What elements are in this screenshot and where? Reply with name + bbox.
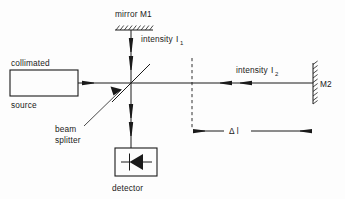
diagram-canvas: mirror M1 intensity I 1 collimated sourc…: [0, 0, 345, 199]
path-difference-dimension: [193, 129, 312, 133]
mirror-m1-hatching: [116, 26, 153, 31]
dimension-right-arrow: [300, 129, 312, 133]
mirror-m2: [313, 61, 318, 104]
intensity-1-label: intensity: [141, 34, 173, 44]
source-label-bottom: source: [11, 100, 37, 110]
mirror-m2-hatching: [313, 61, 318, 104]
mirror-m1: [115, 26, 153, 31]
detector-beam: [129, 83, 133, 148]
intensity-2-subscript: 2: [275, 71, 279, 77]
interferometer-diagram: mirror M1 intensity I 1 collimated sourc…: [0, 0, 345, 199]
mirror-m2-label: M2: [320, 79, 332, 89]
beam-splitter: [84, 64, 150, 126]
beam-splitter-label-line1: beam: [55, 124, 76, 134]
intensity-2-label: intensity: [236, 65, 268, 75]
intensity-2-symbol: I: [271, 65, 273, 75]
detector: [115, 148, 157, 176]
m2-arm-beam-arrow-outer: [220, 81, 232, 86]
m1-arm-beam: [129, 30, 133, 83]
m1-arm-beam-arrow-lower: [129, 56, 133, 70]
dimension-left-arrow: [193, 129, 205, 133]
intensity-1-symbol: I: [176, 34, 178, 44]
beam-splitter-leader-line: [84, 90, 121, 126]
source-box: [10, 70, 78, 96]
beam-splitter-label-line2: splitter: [55, 135, 81, 145]
source-beam: [78, 81, 131, 86]
path-difference-label: Δ l: [229, 126, 239, 136]
m1-arm-beam-arrow-upper: [129, 38, 133, 52]
m2-arm-beam: [131, 81, 313, 86]
mirror-m1-label: mirror M1: [115, 9, 152, 19]
detector-beam-arrow-lower: [129, 122, 133, 136]
source-label-top: collimated: [11, 58, 50, 68]
intensity-1-subscript: 1: [180, 40, 184, 46]
m2-arm-beam-arrow-inner: [240, 81, 252, 86]
source-beam-arrow: [82, 81, 94, 86]
collimated-source: [10, 70, 78, 96]
detector-beam-arrow-upper: [129, 104, 133, 118]
detector-label: detector: [112, 183, 143, 193]
